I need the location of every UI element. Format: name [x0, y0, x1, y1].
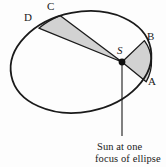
sun-focus-marker — [119, 59, 126, 66]
orbit-diagram-figure: A B C D S Sun at one focus of ellipse — [0, 0, 166, 167]
caption-line-1: Sun at one — [97, 141, 142, 153]
caption-line-2: focus of ellipse — [95, 153, 161, 165]
sun-focus-label-s: S — [117, 45, 123, 56]
sector-scd-shape — [39, 16, 122, 62]
orbit-point-label-c: C — [47, 1, 55, 12]
orbit-point-label-b: B — [147, 31, 155, 42]
orbit-point-label-a: A — [148, 76, 156, 87]
orbit-point-label-d: D — [24, 12, 32, 23]
